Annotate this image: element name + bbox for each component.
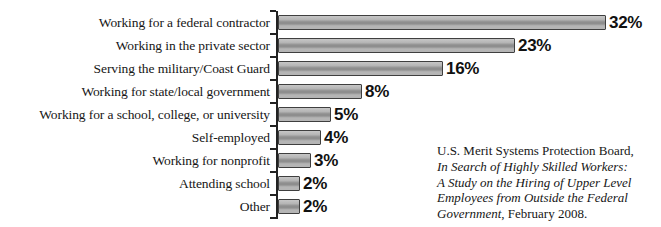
bar	[278, 130, 321, 145]
source-note: U.S. Merit Systems Protection Board, In …	[437, 143, 655, 222]
chart-row: Serving the military/Coast Guard 16%	[0, 57, 642, 80]
note-roman-text: U.S. Merit Systems Protection Board,	[437, 143, 634, 158]
axis-tick	[270, 33, 276, 35]
axis-tick	[270, 171, 276, 173]
category-label: Working for a school, college, or univer…	[0, 107, 270, 123]
bar-area: 32%	[278, 11, 642, 34]
y-axis-line	[276, 11, 278, 219]
value-label: 4%	[324, 128, 348, 148]
bar-area: 5%	[278, 103, 358, 126]
source-note-line: A Study on the Hiring of Upper Level	[437, 175, 655, 191]
bar-area: 2%	[278, 172, 327, 195]
chart-row: Working for a school, college, or univer…	[0, 103, 642, 126]
bar	[278, 15, 606, 30]
bar-chart: Working for a federal contractor 32% Wor…	[0, 0, 661, 227]
value-label: 16%	[446, 59, 479, 79]
bar	[278, 84, 362, 99]
axis-tick	[270, 194, 276, 196]
axis-tick	[270, 102, 276, 104]
axis-tick	[270, 79, 276, 81]
note-italic-text: Employees from Outside the Federal	[437, 190, 628, 205]
axis-tick	[270, 56, 276, 58]
axis-tick	[270, 148, 276, 150]
source-note-line: In Search of Highly Skilled Workers:	[437, 159, 655, 175]
value-label: 5%	[334, 105, 358, 125]
note-italic-text: A Study on the Hiring of Upper Level	[437, 175, 631, 190]
bar-area: 4%	[278, 126, 348, 149]
category-label: Working for state/local government	[0, 84, 270, 100]
category-label: Other	[0, 199, 270, 215]
category-label: Serving the military/Coast Guard	[0, 61, 270, 77]
axis-tick	[270, 10, 276, 12]
value-label: 2%	[303, 197, 327, 217]
category-label: Working in the private sector	[0, 38, 270, 54]
value-label: 8%	[365, 82, 389, 102]
bar	[278, 153, 311, 168]
bar-area: 8%	[278, 80, 389, 103]
note-italic-text: In Search of Highly Skilled Workers:	[437, 159, 628, 174]
source-note-line: Employees from Outside the Federal	[437, 190, 655, 206]
chart-row: Working for state/local government 8%	[0, 80, 642, 103]
category-label: Working for nonprofit	[0, 153, 270, 169]
category-label: Working for a federal contractor	[0, 15, 270, 31]
value-label: 32%	[609, 13, 642, 33]
axis-tick	[270, 125, 276, 127]
bar	[278, 107, 331, 122]
value-label: 3%	[314, 151, 338, 171]
chart-row: Working in the private sector 23%	[0, 34, 642, 57]
source-note-line: U.S. Merit Systems Protection Board,	[437, 143, 655, 159]
category-label: Self-employed	[0, 130, 270, 146]
bar	[278, 176, 300, 191]
bar-area: 16%	[278, 57, 479, 80]
chart-row: Working for a federal contractor 32%	[0, 11, 642, 34]
category-label: Attending school	[0, 176, 270, 192]
source-note-line: Government, February 2008.	[437, 206, 655, 222]
bar-area: 2%	[278, 195, 327, 218]
bar-area: 3%	[278, 149, 338, 172]
value-label: 2%	[303, 174, 327, 194]
bar	[278, 61, 443, 76]
bar	[278, 199, 300, 214]
bar-area: 23%	[278, 34, 551, 57]
value-label: 23%	[518, 36, 551, 56]
axis-tick	[270, 217, 276, 219]
note-italic-text: Government	[437, 206, 501, 221]
note-roman-text: , February 2008.	[501, 206, 587, 221]
bar	[278, 38, 515, 53]
